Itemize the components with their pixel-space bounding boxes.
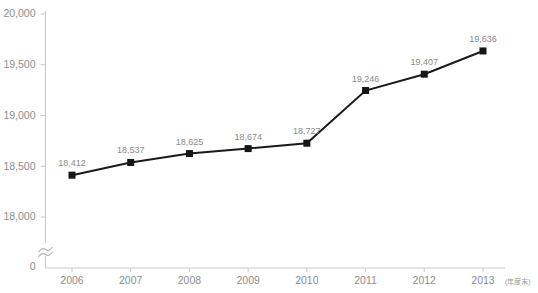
y-tick-label: 19,500 bbox=[3, 58, 35, 70]
x-tick-label: 2006 bbox=[60, 274, 84, 286]
data-point-label: 18,674 bbox=[234, 132, 262, 142]
x-tick-label: 2008 bbox=[178, 274, 202, 286]
x-tick-label: 2013 bbox=[471, 274, 495, 286]
data-point-marker[interactable] bbox=[480, 47, 487, 54]
line-chart: 18,00018,50019,00019,50020,0000200620072… bbox=[0, 0, 538, 293]
x-tick-label: 2009 bbox=[236, 274, 260, 286]
x-tick-label: 2007 bbox=[119, 274, 143, 286]
chart-canvas: 18,00018,50019,00019,50020,0000200620072… bbox=[0, 0, 538, 293]
series-line bbox=[72, 51, 483, 175]
y-tick-label: 18,500 bbox=[3, 160, 35, 172]
data-point-label: 19,407 bbox=[411, 57, 439, 67]
data-point-label: 19,246 bbox=[352, 74, 380, 84]
data-point-label: 18,412 bbox=[58, 158, 86, 168]
data-point-marker[interactable] bbox=[362, 87, 369, 94]
data-point-marker[interactable] bbox=[421, 71, 428, 78]
data-point-label: 18,537 bbox=[117, 145, 145, 155]
y-tick-label: 18,000 bbox=[3, 210, 35, 222]
y-axis-break-icon bbox=[39, 247, 53, 252]
y-tick-label: 19,000 bbox=[3, 109, 35, 121]
x-tick-label: 2012 bbox=[413, 274, 437, 286]
data-point-marker[interactable] bbox=[303, 140, 310, 147]
data-point-label: 19,636 bbox=[469, 34, 497, 44]
data-point-label: 18,625 bbox=[176, 137, 204, 147]
data-point-marker[interactable] bbox=[127, 159, 134, 166]
data-point-marker[interactable] bbox=[69, 172, 76, 179]
data-point-marker[interactable] bbox=[245, 145, 252, 152]
y-axis-origin-label: 0 bbox=[30, 260, 36, 272]
x-tick-label: 2011 bbox=[354, 274, 377, 286]
data-point-label: 18,727 bbox=[293, 126, 321, 136]
x-axis-unit-note: (年度末) bbox=[505, 277, 531, 286]
data-point-marker[interactable] bbox=[186, 150, 193, 157]
x-tick-label: 2010 bbox=[295, 274, 319, 286]
y-tick-label: 20,000 bbox=[3, 7, 35, 19]
